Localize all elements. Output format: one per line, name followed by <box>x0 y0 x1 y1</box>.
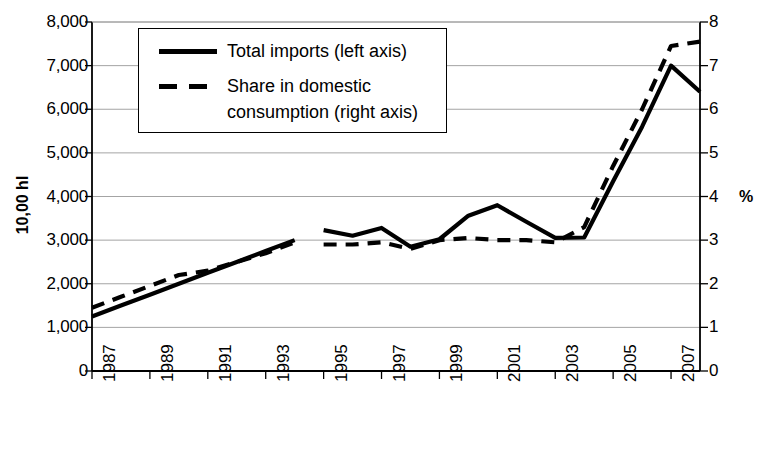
legend-item-total-imports: Total imports (left axis) <box>139 38 446 68</box>
x-axis-tick-label: 1993 <box>274 344 294 382</box>
x-axis-tick-label: 2007 <box>679 344 699 382</box>
legend-line-sample-solid <box>159 49 217 54</box>
x-axis-tick-label: 2005 <box>621 344 641 382</box>
chart-legend: Total imports (left axis) Share in domes… <box>138 28 447 133</box>
chart-container: 01,0002,0003,0004,0005,0006,0007,0008,00… <box>0 0 781 452</box>
legend-label-total-imports: Total imports (left axis) <box>227 38 407 64</box>
x-axis-tick-label: 1995 <box>332 344 352 382</box>
x-axis-tick-label: 1999 <box>447 344 467 382</box>
right-axis-title: % <box>739 188 753 206</box>
legend-item-share-domestic-consumption: Share in domestic consumption (right axi… <box>139 73 446 129</box>
x-axis-tick-label: 1989 <box>158 344 178 382</box>
legend-label-share-domestic-consumption: Share in domestic consumption (right axi… <box>227 73 418 125</box>
y-axis-title: 10,00 hl <box>14 160 32 250</box>
x-axis-tick-label: 2003 <box>563 344 583 382</box>
x-axis-tick-label: 1991 <box>216 344 236 382</box>
legend-line-sample-dashed <box>159 84 217 89</box>
x-axis-tick-label: 1997 <box>390 344 410 382</box>
x-axis-tick-label: 2001 <box>505 344 525 382</box>
x-axis-tick-label: 1987 <box>100 344 120 382</box>
